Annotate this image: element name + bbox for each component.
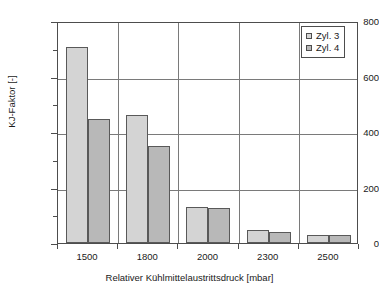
legend-swatch-icon: [306, 33, 312, 39]
x-axis-tick-label: 2500: [293, 251, 363, 262]
bar-zyl-3-2500: [307, 235, 329, 243]
x-axis-tick-mark: [238, 244, 239, 249]
bar-zyl-4-2500: [329, 235, 351, 243]
bar-zyl-4-2300: [269, 232, 291, 243]
legend-item-zyl-3: Zyl. 3: [306, 30, 339, 42]
y-axis-title: KJ-Faktor [-]: [6, 47, 17, 157]
x-axis-tick-mark: [177, 244, 178, 249]
legend-item-label: Zyl. 4: [316, 43, 339, 53]
legend-item-label: Zyl. 3: [316, 31, 339, 41]
bar-group: [58, 23, 118, 243]
legend-item-zyl-4: Zyl. 4: [306, 42, 339, 54]
bar-zyl-4-1500: [88, 119, 110, 243]
bar-zyl-3-1500: [66, 47, 88, 243]
legend-swatch-icon: [306, 45, 312, 51]
bar-zyl-4-1800: [148, 146, 170, 243]
bar-zyl-3-2300: [247, 230, 269, 243]
bar-zyl-4-2000: [208, 208, 230, 243]
x-axis-tick-mark: [57, 244, 58, 249]
bar-group: [118, 23, 178, 243]
x-axis-tick-mark: [117, 244, 118, 249]
bar-chart: KJ-Faktor [-] 8006004002000 150018002000…: [0, 0, 379, 293]
bar-zyl-3-1800: [126, 115, 148, 243]
x-axis-title: Relativer Kühlmittelaustrittsdruck [mbar…: [0, 272, 379, 283]
bar-zyl-3-2000: [186, 207, 208, 243]
legend: Zyl. 3 Zyl. 4: [301, 26, 345, 58]
x-axis-tick-mark: [358, 244, 359, 249]
bar-group: [239, 23, 299, 243]
bar-group: [178, 23, 238, 243]
x-axis-tick-mark: [298, 244, 299, 249]
